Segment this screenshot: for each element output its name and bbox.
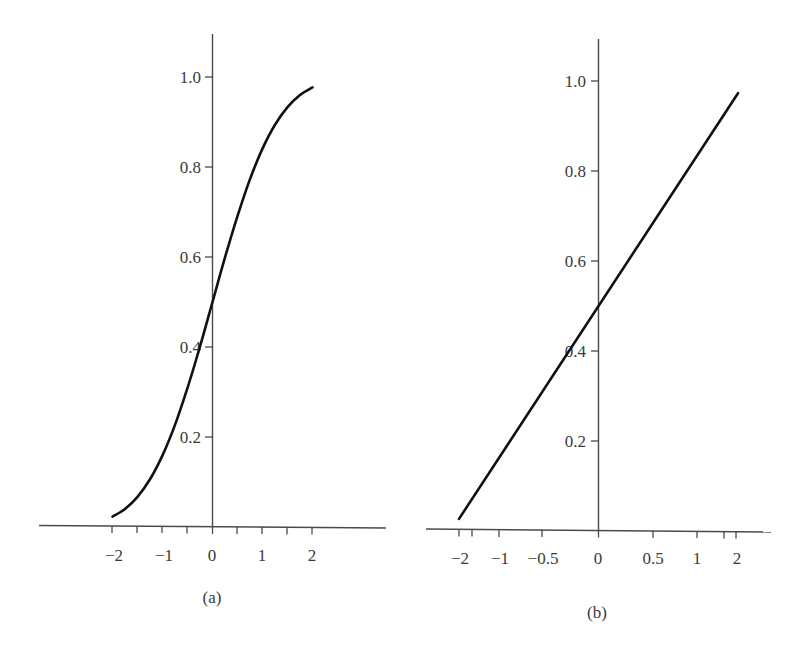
panel-b-y-ticks [591, 81, 599, 441]
y-tick-label: 0.8 [565, 162, 586, 181]
x-tick-label: 1 [693, 549, 702, 568]
x-tick-label: −0.5 [528, 549, 559, 568]
x-tick-label: −2 [451, 549, 469, 568]
figure: 1.0 0.8 0.6 0.4 0.2 −2 −1 0 1 2 (a) [0, 0, 807, 654]
x-tick-label: 1 [258, 546, 267, 565]
x-tick-label: 0 [208, 546, 217, 565]
y-tick-label: 0.2 [180, 428, 201, 447]
panel-a: 1.0 0.8 0.6 0.4 0.2 −2 −1 0 1 2 (a) [39, 34, 386, 607]
x-tick-label: −1 [491, 549, 509, 568]
panel-b: 1.0 0.8 0.6 0.4 0.2 −2 −1 −0.5 0 0.5 1 2 [426, 39, 771, 622]
panel-a-x-tick-labels: −2 −1 0 1 2 [105, 546, 316, 565]
x-tick-label: 2 [308, 546, 317, 565]
y-tick-label: 0.8 [180, 158, 201, 177]
y-tick-label: 1.0 [180, 68, 201, 87]
panel-a-y-tick-labels: 1.0 0.8 0.6 0.4 0.2 [180, 68, 202, 447]
x-tick-label: −2 [105, 546, 123, 565]
panel-a-caption: (a) [203, 588, 222, 607]
y-tick-label: 0.2 [565, 432, 586, 451]
panel-b-x-tick-labels: −2 −1 −0.5 0 0.5 1 2 [451, 549, 741, 568]
x-tick-label: 2 [733, 549, 742, 568]
x-tick-label: 0 [594, 549, 603, 568]
panel-a-y-ticks [205, 77, 213, 437]
panel-b-y-tick-labels: 1.0 0.8 0.6 0.4 0.2 [565, 72, 587, 451]
x-tick-label: −1 [155, 546, 173, 565]
x-tick-label: 0.5 [642, 549, 663, 568]
panel-b-caption: (b) [587, 603, 607, 622]
y-tick-label: 0.6 [565, 252, 586, 271]
y-tick-label: 1.0 [565, 72, 586, 91]
y-tick-label: 0.6 [180, 248, 201, 267]
